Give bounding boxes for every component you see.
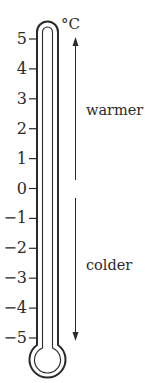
warmer-arrow-icon	[73, 37, 79, 180]
tick-label-1: 1	[0, 151, 27, 167]
tick-label-2: 2	[0, 121, 27, 137]
colder-label: colder	[86, 257, 132, 273]
tick-label-neg2: −2	[0, 240, 27, 256]
tick-label-4: 4	[0, 61, 27, 77]
tick-label-neg1: −1	[0, 210, 27, 226]
tick-label-neg3: −3	[0, 270, 27, 286]
tick-label-5: 5	[0, 31, 27, 47]
tick-label-0: 0	[0, 181, 27, 197]
tick-label-neg4: −4	[0, 300, 27, 316]
thermometer-inner-outline	[35, 27, 61, 373]
unit-label: °C	[61, 16, 80, 32]
tick-label-3: 3	[0, 91, 27, 107]
colder-arrow-icon	[73, 198, 79, 341]
tick-label-neg5: −5	[0, 330, 27, 346]
warmer-label: warmer	[86, 102, 143, 118]
thermometer-outer-outline	[30, 22, 66, 378]
scale-ticks	[29, 39, 37, 338]
